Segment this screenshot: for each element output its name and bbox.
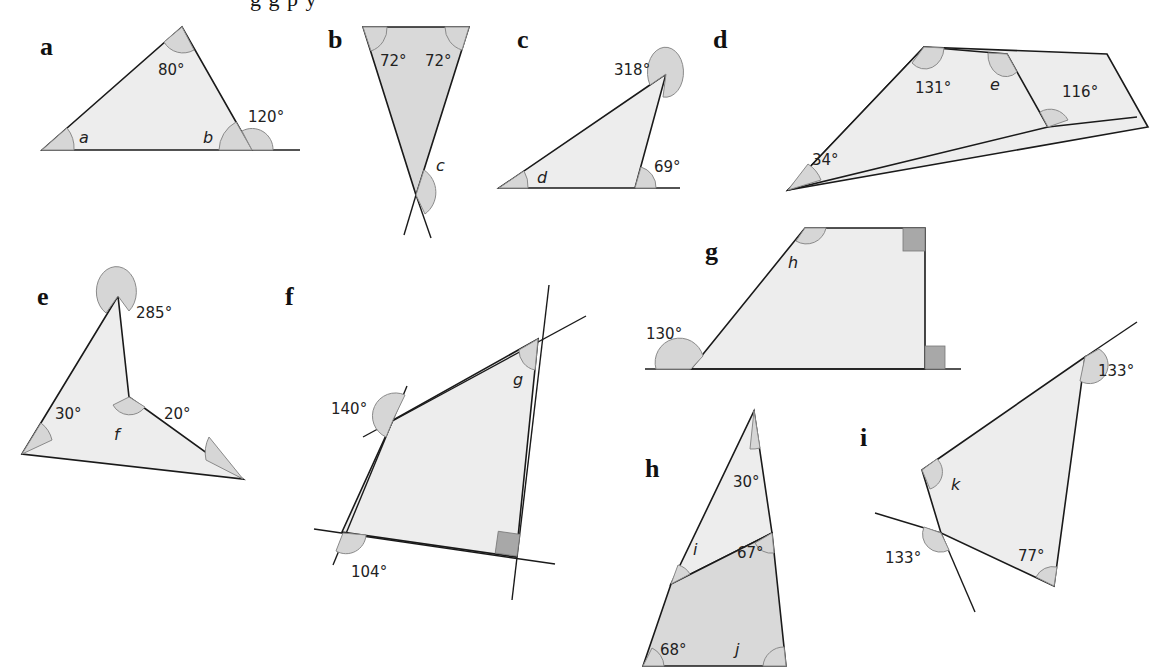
panel-label-i: i (860, 423, 867, 452)
unknown-i: i (693, 540, 698, 559)
angle-label-77: 77° (1018, 547, 1045, 565)
unknown-g: g (513, 370, 523, 389)
unknown-d: d (537, 168, 548, 187)
angle-label-30-h: 30° (733, 473, 760, 491)
panel-label-d: d (713, 25, 728, 54)
angle-label-72-right: 72° (425, 52, 452, 70)
angle-label-133-top: 133° (1098, 362, 1134, 380)
angle-arc-a (42, 128, 74, 150)
angle-label-72-left: 72° (380, 52, 407, 70)
crossing-line-left (404, 195, 416, 235)
right-angle-marker-f (495, 531, 520, 556)
angle-label-67: 67° (737, 544, 764, 562)
panel-label-f: f (285, 282, 294, 311)
panel-a: a 80° 120° a b (40, 27, 300, 150)
panel-e: e 285° 30° 20° f (22, 267, 243, 479)
angle-arc-d (499, 171, 528, 188)
panel-label-h: h (645, 454, 660, 483)
right-angle-marker-bottom (925, 346, 945, 369)
right-angle-marker-top (903, 228, 925, 251)
unknown-e: e (990, 75, 1000, 94)
angle-label-120: 120° (248, 108, 284, 126)
panel-label-b: b (328, 25, 342, 54)
extension-line-top-i (1085, 322, 1137, 357)
triangle-a (42, 27, 252, 150)
triangle-b (363, 27, 469, 195)
unknown-a: a (79, 128, 89, 147)
panel-b: b 72° 72° c (328, 25, 469, 238)
angle-label-20: 20° (164, 405, 191, 423)
panel-label-c: c (517, 25, 529, 54)
angle-label-318: 318° (614, 61, 650, 79)
panel-label-g: g (705, 237, 718, 266)
angle-exercises-figure: a 80° 120° a b b 72° 72° c c 318° 69° d (0, 0, 1156, 671)
trapezium-g (691, 228, 925, 369)
unknown-j: j (733, 640, 740, 659)
angle-label-80: 80° (158, 61, 185, 79)
angle-arc-104b (336, 533, 366, 554)
angle-label-34: 34° (812, 151, 839, 169)
angle-label-116: 116° (1062, 83, 1098, 101)
unknown-h: h (788, 253, 798, 272)
panel-g: g 130° h (645, 228, 961, 369)
panel-h: h 30° 67° 68° i j (643, 411, 786, 666)
angle-label-69: 69° (654, 158, 681, 176)
panel-label-a: a (40, 32, 53, 61)
quadrilateral-f-body (342, 339, 538, 557)
panel-label-e: e (37, 282, 49, 311)
unknown-k: k (951, 475, 961, 494)
angle-label-68: 68° (660, 641, 687, 659)
angle-label-131: 131° (915, 79, 951, 97)
panel-f: f 140° 104° g (285, 282, 586, 600)
angle-label-104: 104° (351, 563, 387, 581)
angle-label-133-left: 133° (885, 549, 921, 567)
angle-label-30: 30° (55, 405, 82, 423)
angle-label-130: 130° (646, 325, 682, 343)
unknown-c: c (436, 156, 445, 175)
panel-c: c 318° 69° d (499, 25, 683, 188)
panel-d: d 34° 131° 116° e (713, 25, 1148, 190)
angle-label-285: 285° (136, 304, 172, 322)
unknown-b: b (203, 128, 213, 147)
angle-label-140: 140° (331, 400, 367, 418)
